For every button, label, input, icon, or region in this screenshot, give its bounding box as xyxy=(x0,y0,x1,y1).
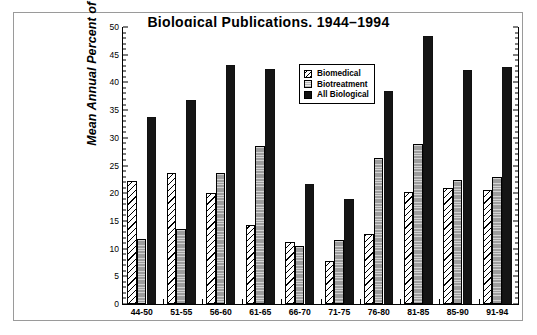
legend-item-all-biological: All Biological xyxy=(304,90,369,100)
bar-group xyxy=(400,27,440,304)
x-axis-tick-labels: 44-5051-5556-6061-6566-7071-7576-8081-85… xyxy=(122,307,519,327)
x-group-separator xyxy=(400,299,401,304)
y-tick-label: 30 xyxy=(110,133,123,143)
x-tick-label: 85-90 xyxy=(447,307,469,317)
figure-canvas: Biological Publications, 1944–1994 Mean … xyxy=(0,0,537,335)
x-group-separator xyxy=(360,299,361,304)
bar-all-biological xyxy=(423,36,433,304)
bar-biotreatment xyxy=(295,246,305,304)
bar-biotreatment xyxy=(255,146,265,304)
x-group-separator xyxy=(479,299,480,304)
bar-biomedical xyxy=(364,234,374,304)
bar-biotreatment xyxy=(453,180,463,304)
bar-biomedical xyxy=(167,173,177,304)
bar-biotreatment xyxy=(334,240,344,304)
legend-swatch-biotreatment-icon xyxy=(304,80,312,88)
y-axis-label: Mean Annual Percent of Reports xyxy=(85,0,99,178)
legend-swatch-biomedical-icon xyxy=(304,70,312,78)
y-tick-label: 35 xyxy=(110,105,123,115)
legend-label-biomedical: Biomedical xyxy=(317,69,361,78)
x-group-separator xyxy=(242,299,243,304)
y-tick-label: 15 xyxy=(110,216,123,226)
bar-all-biological xyxy=(186,100,196,304)
legend-label-all-biological: All Biological xyxy=(317,90,369,99)
y-tick-label: 10 xyxy=(110,244,123,254)
bar-all-biological xyxy=(344,199,354,304)
bar-biotreatment xyxy=(216,173,226,304)
bar-all-biological xyxy=(265,69,275,304)
bar-biotreatment xyxy=(374,158,384,304)
x-group-separator xyxy=(281,299,282,304)
bar-group xyxy=(163,27,203,304)
bar-biomedical xyxy=(325,261,335,304)
bar-all-biological xyxy=(147,117,157,304)
chart-legend: Biomedical Biotreatment All Biological xyxy=(299,64,375,104)
y-tick-label: 25 xyxy=(110,161,123,171)
legend-item-biotreatment: Biotreatment xyxy=(304,79,369,89)
x-tick-label: 76-80 xyxy=(368,307,390,317)
x-tick-label: 81-85 xyxy=(407,307,429,317)
x-group-separator xyxy=(321,299,322,304)
bar-biotreatment xyxy=(137,239,147,304)
bar-group xyxy=(123,27,163,304)
y-tick-label: 45 xyxy=(110,50,123,60)
bar-all-biological xyxy=(226,65,236,304)
bar-all-biological xyxy=(305,184,315,304)
x-tick-label: 44-50 xyxy=(131,307,153,317)
x-group-separator xyxy=(163,299,164,304)
bar-biomedical xyxy=(443,188,453,304)
bar-biomedical xyxy=(206,193,216,304)
x-tick-label: 56-60 xyxy=(210,307,232,317)
bar-group xyxy=(202,27,242,304)
x-tick-label: 66-70 xyxy=(289,307,311,317)
y-axis-label-container: Mean Annual Percent of Reports xyxy=(24,27,60,305)
y-tick-label: 50 xyxy=(110,22,123,32)
bar-group xyxy=(479,27,519,304)
bar-biomedical xyxy=(404,192,414,304)
bar-biotreatment xyxy=(413,144,423,304)
bar-biomedical xyxy=(483,190,493,304)
bar-biotreatment xyxy=(176,229,186,304)
y-tick-label: 40 xyxy=(110,77,123,87)
bar-group xyxy=(439,27,479,304)
bar-biomedical xyxy=(127,181,137,304)
bar-biotreatment xyxy=(492,177,502,304)
legend-label-biotreatment: Biotreatment xyxy=(317,80,368,89)
x-tick-label: 51-55 xyxy=(170,307,192,317)
x-tick-label: 61-65 xyxy=(249,307,271,317)
y-tick-label: 20 xyxy=(110,188,123,198)
x-group-separator xyxy=(439,299,440,304)
legend-item-biomedical: Biomedical xyxy=(304,69,369,79)
bar-biomedical xyxy=(285,242,295,304)
bar-all-biological xyxy=(463,70,473,304)
x-tick-label: 71-75 xyxy=(328,307,350,317)
bar-group xyxy=(242,27,282,304)
bar-all-biological xyxy=(384,91,394,304)
bar-biomedical xyxy=(246,225,256,304)
legend-swatch-all-biological-icon xyxy=(304,91,312,99)
y-tick-label: 5 xyxy=(114,271,123,281)
x-tick-label: 91-94 xyxy=(486,307,508,317)
bar-all-biological xyxy=(502,67,512,304)
x-group-separator xyxy=(202,299,203,304)
